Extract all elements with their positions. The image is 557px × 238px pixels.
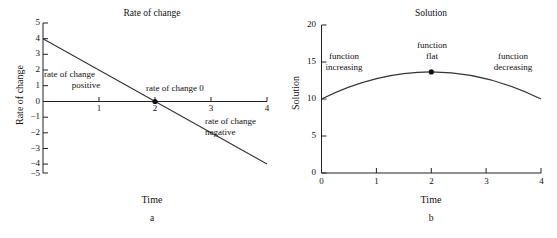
data-curve-solution bbox=[322, 72, 542, 99]
panel-b-title: Solution bbox=[386, 8, 476, 19]
y-tick-label-neg5: −5 bbox=[21, 168, 40, 179]
y-tick-label-5: 5 bbox=[26, 17, 40, 28]
annotation-function-decreasing-line2: decreasing bbox=[476, 62, 550, 73]
y-tick-label-4: 4 bbox=[26, 33, 40, 44]
panel-a-title: Rate of change bbox=[92, 8, 212, 19]
x-tick-label-1: 1 bbox=[369, 176, 384, 187]
y-tick-label-0: 0 bbox=[26, 96, 40, 107]
y-tick-label-2: 2 bbox=[26, 64, 40, 75]
y-tick-label-neg3: −3 bbox=[21, 143, 40, 154]
x-tick-label-4: 4 bbox=[260, 103, 274, 114]
annotation-rate-of-change-positive-line1: rate of change bbox=[44, 69, 128, 80]
x-tick-label-1: 1 bbox=[92, 103, 106, 114]
annotation-function-flat-line2: flat bbox=[398, 51, 466, 62]
annotation-rate-of-change-negative-line1: rate of change bbox=[205, 116, 277, 127]
x-tick-label-3: 3 bbox=[204, 103, 218, 114]
function-flat-marker bbox=[429, 69, 434, 74]
y-tick-marks bbox=[43, 23, 48, 173]
annotation-rate-of-change-zero: rate of change 0 bbox=[146, 83, 242, 94]
panel-b-letter: b bbox=[416, 213, 446, 224]
panel-b-y-axis-label: Solution bbox=[290, 58, 301, 128]
y-tick-label-5: 5 bbox=[294, 130, 316, 141]
x-tick-label-2: 2 bbox=[148, 103, 162, 114]
annotation-function-increasing-line2: increasing bbox=[310, 62, 378, 73]
annotation-function-increasing-line1: function bbox=[310, 51, 378, 62]
panel-b-solution: 20 15 10 5 0 0 1 2 3 4 Solution Solution… bbox=[280, 0, 557, 238]
y-tick-label-0: 0 bbox=[294, 167, 316, 178]
x-tick-label-0: 0 bbox=[314, 176, 329, 187]
x-tick-label-2: 2 bbox=[424, 176, 439, 187]
x-tick-label-4: 4 bbox=[534, 176, 549, 187]
panel-a-rate-of-change: 5 4 3 2 1 0 −1 −2 −3 −4 −5 1 2 3 4 Rate … bbox=[0, 0, 280, 238]
x-tick-label-3: 3 bbox=[479, 176, 494, 187]
x-tick-marks bbox=[322, 168, 542, 173]
annotation-function-decreasing-line1: function bbox=[476, 51, 550, 62]
annotation-function-flat-line1: function bbox=[398, 40, 466, 51]
y-tick-label-20: 20 bbox=[294, 19, 316, 30]
panel-a-x-axis-label: Time bbox=[122, 194, 182, 205]
annotation-rate-of-change-negative-line2: negative bbox=[205, 127, 277, 138]
y-tick-label-1: 1 bbox=[26, 80, 40, 91]
panel-a-letter: a bbox=[137, 213, 167, 224]
panel-a-y-axis-label: Rate of change bbox=[14, 50, 25, 140]
panel-b-x-axis-label: Time bbox=[401, 194, 461, 205]
x-tick-marks bbox=[99, 97, 267, 102]
y-tick-label-3: 3 bbox=[26, 48, 40, 59]
annotation-rate-of-change-positive-line2: positive bbox=[44, 80, 128, 91]
